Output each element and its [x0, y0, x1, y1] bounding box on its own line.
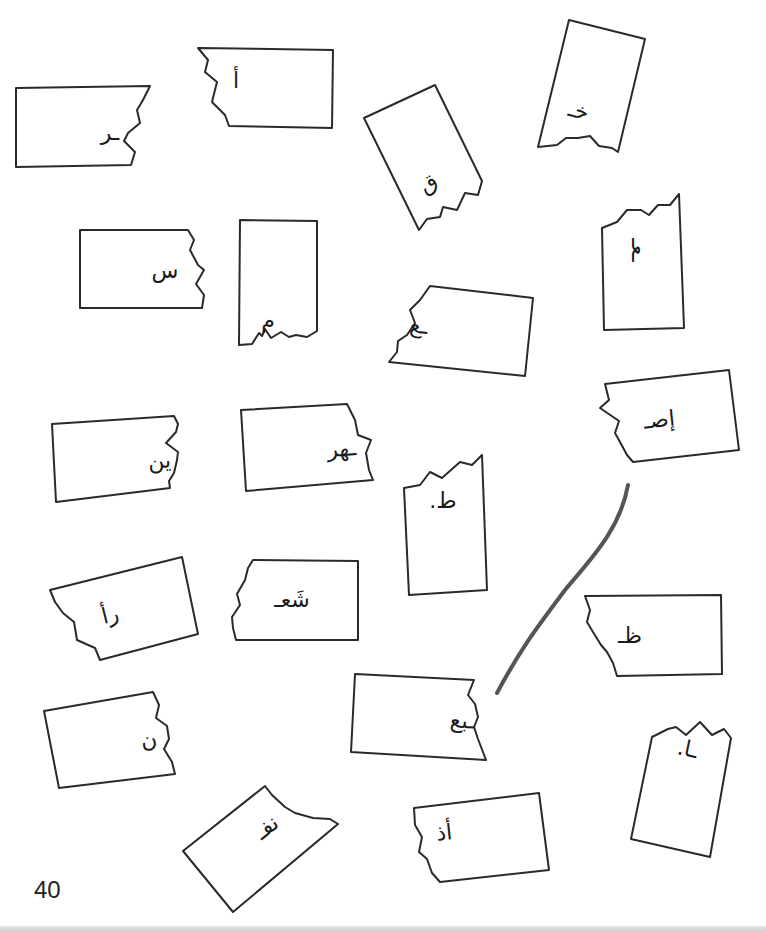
page-bottom-edge: [0, 926, 766, 932]
worksheet-page: ـرأقخـسمـعـعـينـهرإصـط.رأشَعـظــبعنـا.نف…: [0, 0, 766, 932]
matching-line[interactable]: [497, 485, 628, 693]
matching-line-layer: [0, 0, 766, 932]
page-number: 40: [34, 876, 61, 904]
